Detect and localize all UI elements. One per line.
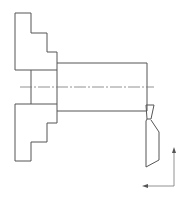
turning-diagram xyxy=(0,0,188,205)
drawing-canvas xyxy=(0,0,188,205)
chuck-upper-jaw xyxy=(15,13,57,70)
chuck-lower-jaw xyxy=(15,104,57,161)
arrow-left-icon xyxy=(142,184,148,188)
arrow-up-icon xyxy=(172,147,176,153)
cutting-tool-body xyxy=(146,119,159,167)
